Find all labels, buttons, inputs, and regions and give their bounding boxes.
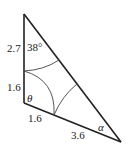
label-bottom-side-near: 1.6: [28, 113, 42, 124]
label-left-upper-side: 2.7: [7, 43, 21, 54]
arc-top: [24, 60, 59, 71]
triangle-diagram: [0, 0, 130, 150]
label-bottom-side-far: 3.6: [71, 130, 85, 141]
label-theta: θ: [27, 93, 32, 104]
label-alpha: α: [98, 122, 104, 133]
label-left-lower-side: 1.6: [7, 82, 21, 93]
label-top-angle: 38°: [27, 42, 42, 53]
arc-right: [54, 84, 77, 115]
